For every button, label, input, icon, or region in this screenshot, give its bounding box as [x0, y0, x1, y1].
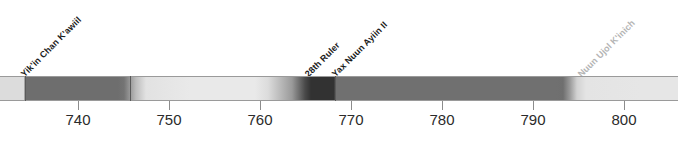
- axis-tick-label-740: 740: [65, 112, 90, 127]
- timeline-bar: [0, 76, 678, 101]
- axis-tick-790: [533, 101, 534, 110]
- timeline-bar-gradient: [0, 76, 678, 101]
- axis-tick-780: [442, 101, 443, 110]
- axis-tick-label-800: 800: [611, 112, 636, 127]
- axis-tick-label-750: 750: [156, 112, 181, 127]
- year-axis: 740 750 760 770 780 790 800: [0, 101, 678, 144]
- annotation-label-yax-nuun-ayiin-ii: Yax Nuun Ayiin II: [331, 20, 390, 79]
- axis-tick-800: [624, 101, 625, 110]
- axis-tick-label-760: 760: [247, 112, 272, 127]
- axis-tick-760: [260, 101, 261, 110]
- segment-edge-yax-nuun-ayiin-ii-start: [335, 76, 336, 101]
- axis-tick-label-790: 790: [520, 112, 545, 127]
- segment-edge-yikin-chan-kawiil-end: [130, 76, 131, 101]
- axis-tick-740: [78, 101, 79, 110]
- axis-tick-750: [169, 101, 170, 110]
- axis-tick-label-780: 780: [429, 112, 454, 127]
- axis-tick-770: [351, 101, 352, 110]
- maya-ruler-timeline-chart: Yik'in Chan K'awiil 28th Ruler Yax Nuun …: [0, 0, 678, 144]
- axis-tick-label-770: 770: [338, 112, 363, 127]
- segment-edge-yikin-chan-kawiil-start: [25, 76, 26, 101]
- annotation-label-yikin-chan-kawiil: Yik'in Chan K'awiil: [20, 15, 84, 79]
- annotation-label-nuun-ujol-kinich: Nuun Ujol K'inich: [577, 19, 637, 79]
